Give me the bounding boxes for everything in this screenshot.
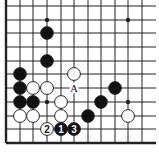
move-number: 3 — [71, 124, 77, 135]
black-stone — [41, 27, 54, 40]
white-stone — [55, 110, 68, 123]
black-stone — [82, 110, 95, 123]
white-stone — [27, 110, 40, 123]
white-stone — [27, 82, 40, 95]
black-stone — [95, 96, 108, 109]
go-board: 123 A — [0, 0, 159, 154]
move-number: 2 — [44, 124, 50, 135]
black-stone — [14, 82, 27, 95]
white-stone — [68, 68, 81, 81]
black-stone — [109, 82, 122, 95]
black-stone — [27, 96, 40, 109]
star-point — [126, 100, 130, 104]
labels-layer: A — [70, 83, 79, 94]
point-label-A: A — [70, 83, 78, 94]
white-stone — [41, 82, 54, 95]
black-stone — [41, 55, 54, 68]
board-grid — [6, 0, 156, 143]
white-stone — [14, 110, 27, 123]
star-point — [126, 18, 130, 22]
white-stone — [55, 96, 68, 109]
move-number: 1 — [58, 124, 64, 135]
star-point — [45, 18, 49, 22]
white-stone — [122, 110, 135, 123]
black-stone — [14, 96, 27, 109]
black-stone — [14, 68, 27, 81]
star-point — [45, 100, 49, 104]
